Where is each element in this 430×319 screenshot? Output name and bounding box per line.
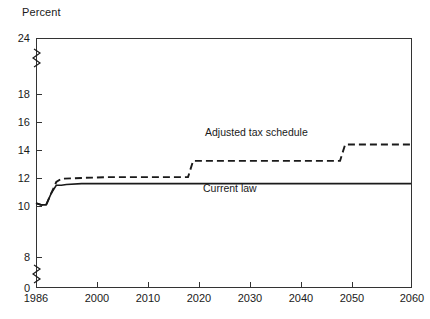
chart-container: Percent 24 18 16 14 12 10 8 0 1986 2000 … [0, 0, 430, 319]
annotation-adjusted-tax-schedule: Adjusted tax schedule [205, 126, 308, 138]
series-line-adjusted-tax-schedule [36, 145, 411, 205]
series-layer [0, 0, 430, 319]
annotation-current-law: Current law [203, 182, 257, 194]
